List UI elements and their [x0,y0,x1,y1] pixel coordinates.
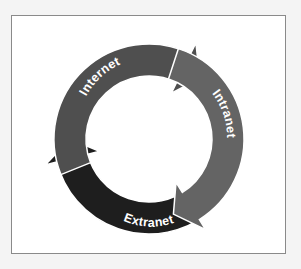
intranet-arrow [168,49,244,230]
cycle-diagram: Internet Intranet Extranet [0,0,301,269]
